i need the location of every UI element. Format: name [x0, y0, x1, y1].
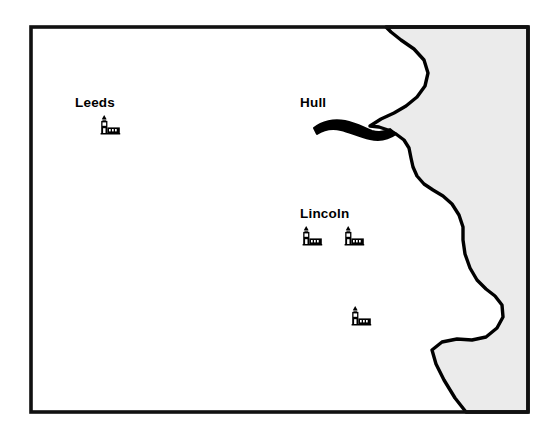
- city-label-lincoln: Lincoln: [300, 206, 349, 221]
- city-label-hull: Hull: [300, 95, 326, 110]
- map-canvas: Leeds Hull Lincoln: [0, 0, 557, 437]
- city-label-leeds: Leeds: [75, 95, 115, 110]
- map-figure: Leeds Hull Lincoln: [0, 0, 557, 437]
